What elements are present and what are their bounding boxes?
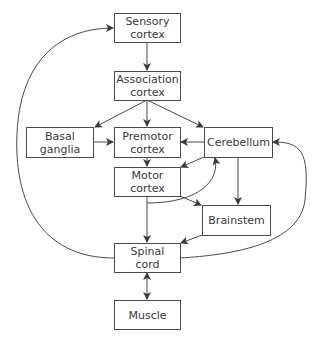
node-premotor-cortex: Premotor cortex — [114, 127, 181, 158]
node-spinal-cord: Spinal cord — [114, 243, 181, 273]
node-label: cortex — [130, 28, 165, 41]
node-muscle: Muscle — [114, 300, 181, 330]
node-label: cortex — [130, 143, 165, 156]
node-association-cortex: Association cortex — [114, 71, 181, 101]
node-cerebellum: Cerebellum — [204, 127, 273, 158]
node-label: Muscle — [128, 309, 166, 322]
node-label: Sensory — [125, 15, 169, 28]
node-label: Brainstem — [208, 214, 264, 227]
node-label: Cerebellum — [207, 136, 270, 149]
node-sensory-cortex: Sensory cortex — [114, 13, 181, 43]
node-basal-ganglia: Basal ganglia — [26, 127, 94, 158]
node-label: ganglia — [40, 143, 81, 156]
node-label: cortex — [130, 182, 165, 195]
node-label: Spinal — [131, 245, 165, 258]
node-label: Basal — [45, 130, 75, 143]
node-label: Motor — [132, 169, 164, 182]
node-motor-cortex: Motor cortex — [114, 167, 181, 197]
node-label: cord — [135, 258, 159, 271]
node-label: Association — [116, 73, 179, 86]
node-brainstem: Brainstem — [202, 205, 271, 236]
node-label: Premotor — [122, 130, 173, 143]
node-label: cortex — [130, 86, 165, 99]
